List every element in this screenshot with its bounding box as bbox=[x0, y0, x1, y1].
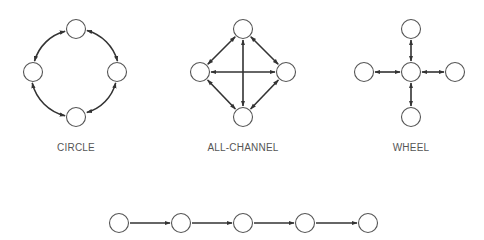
circle-edge-bidirectional-arrow bbox=[32, 83, 65, 116]
circle-label: CIRCLE bbox=[57, 142, 95, 153]
wheel-label: WHEEL bbox=[393, 142, 430, 153]
network-diagram: CIRCLE ALL-CHANNEL WHEEL bbox=[0, 0, 484, 240]
all-channel-node-3 bbox=[234, 108, 253, 127]
circle-edge-bidirectional-arrow bbox=[35, 31, 66, 61]
chain-node-0 bbox=[110, 214, 129, 233]
circle-node-0 bbox=[67, 20, 86, 39]
wheel-node-2 bbox=[355, 63, 374, 82]
wheel-node-3 bbox=[446, 63, 465, 82]
all-channel-node-1 bbox=[191, 63, 210, 82]
all-channel-label: ALL-CHANNEL bbox=[207, 142, 278, 153]
circle-node-2 bbox=[108, 63, 127, 82]
all-channel-network bbox=[191, 20, 296, 127]
chain-network bbox=[110, 214, 378, 233]
wheel-network bbox=[355, 20, 465, 127]
all-channel-edge-bidirectional-arrow bbox=[208, 37, 235, 64]
chain-node-2 bbox=[234, 214, 253, 233]
chain-node-3 bbox=[296, 214, 315, 233]
circle-network bbox=[24, 20, 127, 127]
circle-node-1 bbox=[24, 63, 43, 82]
wheel-node-0 bbox=[402, 63, 421, 82]
circle-edge-bidirectional-arrow bbox=[87, 31, 118, 62]
all-channel-node-2 bbox=[277, 63, 296, 82]
all-channel-node-0 bbox=[234, 20, 253, 39]
all-channel-edge-bidirectional-arrow bbox=[251, 37, 278, 64]
chain-node-1 bbox=[172, 214, 191, 233]
wheel-node-4 bbox=[402, 108, 421, 127]
all-channel-edge-bidirectional-arrow bbox=[208, 80, 236, 109]
chain-node-4 bbox=[359, 214, 378, 233]
circle-edge-bidirectional-arrow bbox=[87, 83, 116, 113]
circle-node-3 bbox=[67, 108, 86, 127]
wheel-node-1 bbox=[402, 20, 421, 39]
all-channel-edge-bidirectional-arrow bbox=[251, 80, 279, 109]
